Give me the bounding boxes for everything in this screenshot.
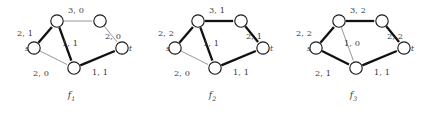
edge-label-b-t: 2, 1 — [246, 31, 262, 41]
edge-s-c — [181, 51, 208, 64]
edge-label-a-c: 1, 1 — [62, 38, 78, 48]
edge-label-s-a: 2, 2 — [158, 28, 174, 38]
edge-s-a — [38, 27, 52, 43]
node-label-s: s — [25, 44, 29, 53]
edge-label-b-t: 2, 2 — [387, 31, 403, 41]
node-label-t: t — [129, 44, 132, 53]
node-s — [310, 42, 322, 54]
edge-label-s-c: 2, 1 — [315, 68, 331, 78]
node-label-s: s — [166, 44, 170, 53]
edge-s-c — [322, 51, 349, 64]
node-c — [209, 62, 221, 74]
edge-label-a-b: 3, 0 — [68, 5, 84, 15]
graph-panel-3: st2, 23, 22, 21, 02, 11, 1f3 — [282, 0, 425, 114]
edge-label-a-b: 3, 2 — [350, 5, 366, 15]
edge-c-t — [80, 51, 115, 65]
edge-label-s-c: 2, 0 — [33, 68, 49, 78]
graph-panel-2: st2, 23, 12, 11, 12, 01, 1f2 — [141, 0, 284, 114]
panel-caption-1: f1 — [0, 90, 143, 102]
edge-label-s-a: 2, 1 — [17, 28, 33, 38]
flow-network-figure: st2, 13, 02, 01, 12, 01, 1f1st2, 23, 12,… — [0, 0, 427, 114]
node-a — [51, 15, 63, 27]
node-a — [192, 15, 204, 27]
node-t — [257, 42, 269, 54]
node-b — [235, 15, 247, 27]
edge-label-c-t: 1, 1 — [92, 67, 108, 77]
node-label-t: t — [270, 44, 273, 53]
node-label-s: s — [307, 44, 311, 53]
edge-label-c-t: 1, 1 — [374, 67, 390, 77]
caption-subscript: 3 — [353, 95, 357, 102]
node-c — [68, 62, 80, 74]
node-s — [169, 42, 181, 54]
edge-c-t — [362, 51, 397, 65]
node-b — [94, 15, 106, 27]
panel-caption-2: f2 — [141, 90, 284, 102]
caption-subscript: 1 — [71, 95, 75, 102]
edge-label-a-c: 1, 1 — [203, 38, 219, 48]
node-c — [350, 62, 362, 74]
node-s — [28, 42, 40, 54]
edge-label-b-t: 2, 0 — [105, 31, 121, 41]
edge-c-t — [221, 51, 256, 65]
panel-caption-3: f3 — [282, 90, 425, 102]
edge-s-a — [320, 27, 334, 43]
edge-label-c-t: 1, 1 — [233, 67, 249, 77]
node-a — [333, 15, 345, 27]
node-label-t: t — [411, 44, 414, 53]
graph-panel-1: st2, 13, 02, 01, 12, 01, 1f1 — [0, 0, 143, 114]
edge-label-s-c: 2, 0 — [174, 68, 190, 78]
edge-label-a-c: 1, 0 — [344, 38, 360, 48]
edge-s-a — [179, 27, 193, 43]
node-b — [376, 15, 388, 27]
caption-subscript: 2 — [212, 95, 216, 102]
node-t — [398, 42, 410, 54]
edge-s-c — [40, 51, 67, 64]
edge-label-a-b: 3, 1 — [209, 5, 225, 15]
edge-label-s-a: 2, 2 — [296, 28, 312, 38]
node-t — [116, 42, 128, 54]
